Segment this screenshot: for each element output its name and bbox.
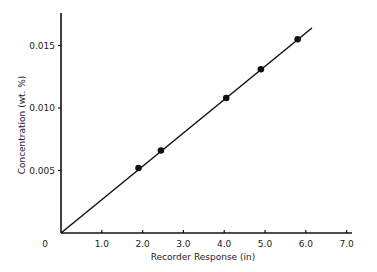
axes bbox=[61, 13, 352, 233]
x-tick-label: 2.0 bbox=[135, 239, 150, 249]
data-point bbox=[258, 66, 265, 73]
fit-line bbox=[61, 28, 312, 233]
y-tick-label: 0.015 bbox=[29, 41, 55, 51]
x-tick-label: 3.0 bbox=[176, 239, 191, 249]
data-point bbox=[135, 165, 142, 172]
data-points bbox=[135, 36, 301, 171]
data-point bbox=[223, 95, 230, 102]
chart: 01.02.03.04.05.06.07.0 0.0050.0100.015 R… bbox=[0, 0, 377, 272]
x-tick-label: 6.0 bbox=[299, 239, 314, 249]
y-axis-label: Concentration (wt. %) bbox=[17, 76, 27, 175]
x-tick-label: 0 bbox=[42, 239, 48, 249]
y-tick-label: 0.005 bbox=[29, 166, 55, 176]
y-ticks: 0.0050.0100.015 bbox=[29, 41, 61, 176]
x-tick-label: 7.0 bbox=[339, 239, 354, 249]
x-axis-label: Recorder Response (in) bbox=[151, 252, 256, 262]
x-tick-label: 5.0 bbox=[258, 239, 273, 249]
data-point bbox=[158, 147, 165, 154]
x-tick-label: 1.0 bbox=[95, 239, 110, 249]
y-tick-label: 0.010 bbox=[29, 103, 55, 113]
x-tick-label: 4.0 bbox=[217, 239, 232, 249]
regression-line bbox=[61, 28, 312, 233]
data-point bbox=[294, 36, 301, 43]
